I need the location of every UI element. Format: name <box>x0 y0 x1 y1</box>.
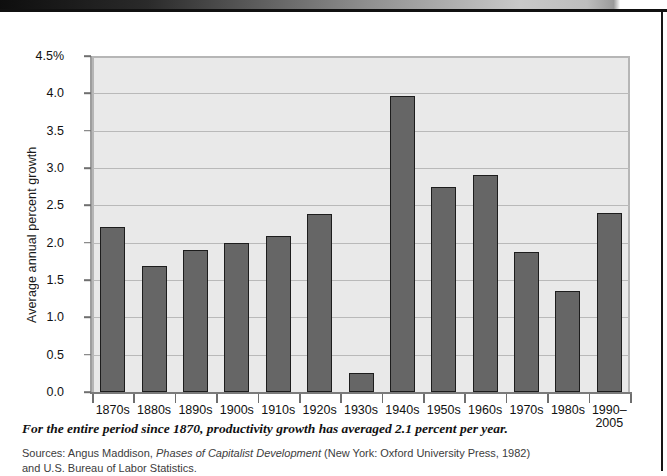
gridline <box>92 93 630 94</box>
x-axis-tick-label: 1970s <box>506 404 547 417</box>
bar <box>349 373 374 392</box>
x-axis-tick-mark <box>506 394 508 403</box>
page-top-decorative-band <box>0 0 667 9</box>
bar <box>183 250 208 392</box>
y-axis-tick-label: 4.0 <box>8 86 64 100</box>
x-axis-tick-mark <box>175 394 177 403</box>
y-axis-tick-label: 2.5 <box>8 198 64 212</box>
x-axis-tick-mark <box>589 394 591 403</box>
y-axis-tick-label: 3.0 <box>8 161 64 175</box>
x-axis-tick-label: 1930s <box>340 404 381 417</box>
y-axis-tick-mark <box>84 130 91 132</box>
gridline <box>92 168 630 169</box>
chart-caption: For the entire period since 1870, produc… <box>22 421 622 437</box>
x-axis-tick-label: 1920s <box>299 404 340 417</box>
x-axis-tick-mark <box>92 394 94 403</box>
x-axis-tick-mark <box>340 394 342 403</box>
x-axis-tick-label: 1890s <box>175 404 216 417</box>
bar <box>307 214 332 392</box>
bar-chart: Average annual percent growth 0.00.51.01… <box>0 12 661 412</box>
bar <box>473 175 498 392</box>
x-axis-tick-label: 1940s <box>382 404 423 417</box>
gridline <box>92 317 630 318</box>
gridline <box>92 205 630 206</box>
plot-area <box>92 56 630 392</box>
bar <box>431 187 456 392</box>
sources-line2: and U.S. Bureau of Labor Statistics. <box>22 462 197 474</box>
y-axis-line <box>90 56 92 393</box>
gridline <box>92 131 630 132</box>
y-axis-tick-label: 2.0 <box>8 236 64 250</box>
x-axis-tick-label: 1910s <box>258 404 299 417</box>
gridline <box>92 280 630 281</box>
x-axis-tick-mark <box>216 394 218 403</box>
y-axis-tick-label: 0.0 <box>8 385 64 399</box>
page-body: Average annual percent growth 0.00.51.01… <box>0 12 661 471</box>
y-axis-tick-label: 1.5 <box>8 273 64 287</box>
y-axis-tick-mark <box>84 317 91 319</box>
sources-line1-suffix: (New York: Oxford University Press, 1982… <box>321 447 530 459</box>
y-axis-tick-mark <box>84 279 91 281</box>
bar <box>555 291 580 392</box>
x-axis-tick-mark <box>547 394 549 403</box>
y-axis-tick-mark <box>84 354 91 356</box>
x-axis-line <box>90 392 632 394</box>
x-axis-tick-mark <box>133 394 135 403</box>
bar <box>514 252 539 392</box>
y-axis-tick-mark <box>84 55 91 57</box>
x-axis-tick-mark <box>630 394 632 403</box>
bar <box>100 227 125 392</box>
gridline <box>92 243 630 244</box>
x-axis-tick-label: 1950s <box>423 404 464 417</box>
x-axis-tick-mark <box>299 394 301 403</box>
y-axis-tick-label: 4.5% <box>8 49 64 63</box>
x-axis-tick-label: 1960s <box>464 404 505 417</box>
x-axis-tick-mark <box>423 394 425 403</box>
bar <box>597 213 622 392</box>
y-axis-tick-label: 1.0 <box>8 310 64 324</box>
y-axis-tick-mark <box>84 391 91 393</box>
x-axis-tick-mark <box>382 394 384 403</box>
chart-sources: Sources: Angus Maddison, Phases of Capit… <box>22 446 632 476</box>
x-axis-tick-label: 1870s <box>92 404 133 417</box>
page-right-border <box>661 12 663 471</box>
gridline <box>92 355 630 356</box>
bar <box>224 243 249 392</box>
bar <box>390 96 415 392</box>
bar <box>266 236 291 392</box>
sources-line1-prefix: Sources: Angus Maddison, <box>22 447 156 459</box>
y-axis-tick-mark <box>84 205 91 207</box>
x-axis-tick-mark <box>464 394 466 403</box>
y-axis-tick-label: 0.5 <box>8 348 64 362</box>
bar <box>142 266 167 392</box>
y-axis-tick-label: 3.5 <box>8 124 64 138</box>
x-axis-tick-mark <box>258 394 260 403</box>
y-axis-tick-mark <box>84 242 91 244</box>
y-axis-tick-mark <box>84 167 91 169</box>
plot-outer <box>92 56 630 392</box>
y-axis-tick-mark <box>84 93 91 95</box>
x-axis-tick-label: 1880s <box>133 404 174 417</box>
x-axis-tick-label: 1900s <box>216 404 257 417</box>
sources-book-title: Phases of Capitalist Development <box>156 447 321 459</box>
x-axis-tick-label: 1980s <box>547 404 588 417</box>
